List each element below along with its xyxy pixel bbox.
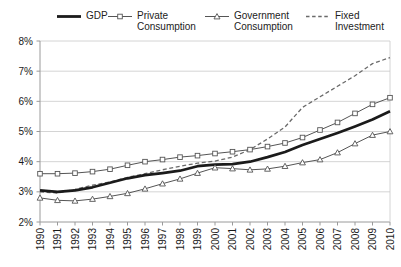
x-axis-label-2000: 2000 <box>210 228 221 251</box>
x-axis-label-1999: 1999 <box>192 228 203 251</box>
x-axis-label-2007: 2007 <box>332 228 343 251</box>
private-consumption-marker-1992 <box>73 171 78 176</box>
private-consumption-marker-2008 <box>353 111 358 116</box>
private-consumption-marker-1994 <box>108 167 113 172</box>
y-axis-label-7%: 7% <box>19 66 34 77</box>
y-axis-label-6%: 6% <box>19 96 34 107</box>
private-consumption-marker-1995 <box>125 163 130 168</box>
private-consumption-marker-1996 <box>143 159 148 164</box>
private-consumption-marker-2003 <box>265 144 270 149</box>
x-axis-label-2008: 2008 <box>350 228 361 251</box>
government-consumption-marker-2007 <box>335 150 341 155</box>
private-consumption-marker-2006 <box>318 128 323 133</box>
plot-area: 2%3%4%5%6%7%8%19901991199219931994199519… <box>0 0 401 267</box>
y-axis-label-3%: 3% <box>19 186 34 197</box>
government-consumption-marker-1990 <box>37 195 43 200</box>
private-consumption-marker-2010 <box>388 95 393 100</box>
x-axis-label-1996: 1996 <box>140 228 151 251</box>
private-consumption-marker-2004 <box>283 141 288 146</box>
series-line-private-consumption <box>40 98 390 174</box>
y-axis-label-4%: 4% <box>19 156 34 167</box>
x-axis-label-2001: 2001 <box>227 228 238 251</box>
x-axis-label-2006: 2006 <box>315 228 326 251</box>
x-axis-label-1990: 1990 <box>35 228 46 251</box>
government-consumption-marker-2008 <box>352 141 358 146</box>
x-axis-label-1994: 1994 <box>105 228 116 251</box>
x-axis-label-2010: 2010 <box>385 228 396 251</box>
x-axis-label-2004: 2004 <box>280 228 291 251</box>
private-consumption-marker-1991 <box>55 171 60 176</box>
private-consumption-marker-2002 <box>248 147 253 152</box>
private-consumption-marker-1998 <box>178 155 183 160</box>
x-axis-label-2005: 2005 <box>297 228 308 251</box>
x-axis-label-2003: 2003 <box>262 228 273 251</box>
private-consumption-marker-2001 <box>230 149 235 154</box>
private-consumption-marker-2005 <box>300 135 305 140</box>
x-axis-label-1995: 1995 <box>122 228 133 251</box>
x-axis-label-2002: 2002 <box>245 228 256 251</box>
x-axis-label-1997: 1997 <box>157 228 168 251</box>
private-consumption-marker-1993 <box>90 169 95 174</box>
private-consumption-marker-2009 <box>370 102 375 107</box>
x-axis-label-1993: 1993 <box>87 228 98 251</box>
private-consumption-marker-2007 <box>335 120 340 125</box>
y-axis-label-8%: 8% <box>19 36 34 47</box>
x-axis-label-1998: 1998 <box>175 228 186 251</box>
y-axis-label-5%: 5% <box>19 126 34 137</box>
private-consumption-marker-1999 <box>195 153 200 158</box>
x-axis-label-1992: 1992 <box>70 228 81 251</box>
chart-figure: GDP Private Consumption Government Consu… <box>0 0 401 267</box>
private-consumption-marker-1997 <box>160 157 165 162</box>
private-consumption-marker-1990 <box>38 171 43 176</box>
private-consumption-marker-2000 <box>213 151 218 156</box>
x-axis-label-2009: 2009 <box>367 228 378 251</box>
y-axis-label-2%: 2% <box>19 217 34 228</box>
x-axis-label-1991: 1991 <box>52 228 63 251</box>
